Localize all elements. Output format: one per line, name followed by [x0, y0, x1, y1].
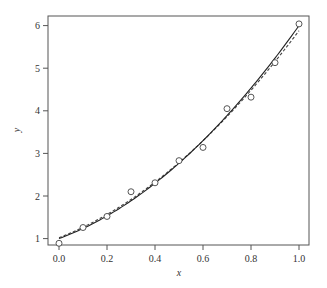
- x-axis-label: x: [176, 267, 182, 278]
- data-points: [56, 21, 302, 246]
- y-tick-label: 1: [35, 233, 40, 244]
- data-point: [176, 158, 182, 164]
- data-point: [80, 225, 86, 231]
- data-point: [224, 106, 230, 112]
- x-tick-label: 0.4: [149, 253, 162, 264]
- y-axis: 123456: [35, 20, 48, 244]
- chart-canvas: 123456 0.00.20.40.60.81.0 x y: [0, 0, 327, 288]
- x-tick-label: 0.0: [53, 253, 66, 264]
- x-axis: 0.00.20.40.60.81.0: [53, 245, 306, 264]
- data-point: [128, 189, 134, 195]
- y-tick-label: 2: [35, 191, 40, 202]
- x-tick-label: 0.8: [245, 253, 258, 264]
- y-tick-label: 6: [35, 20, 40, 31]
- solid-fit-line: [59, 26, 299, 239]
- y-axis-label: y: [11, 127, 22, 133]
- x-tick-label: 1.0: [293, 253, 306, 264]
- data-point: [200, 144, 206, 150]
- data-point: [152, 180, 158, 186]
- y-tick-label: 5: [35, 63, 40, 74]
- y-tick-label: 3: [35, 148, 40, 159]
- plot-frame: [48, 16, 309, 245]
- x-tick-label: 0.2: [101, 253, 114, 264]
- y-tick-label: 4: [35, 105, 40, 116]
- data-point: [104, 213, 110, 219]
- data-point: [248, 94, 254, 100]
- x-tick-label: 0.6: [197, 253, 210, 264]
- data-point: [296, 21, 302, 27]
- data-point: [272, 60, 278, 66]
- dashed-fit-line: [59, 31, 299, 238]
- data-point: [56, 240, 62, 246]
